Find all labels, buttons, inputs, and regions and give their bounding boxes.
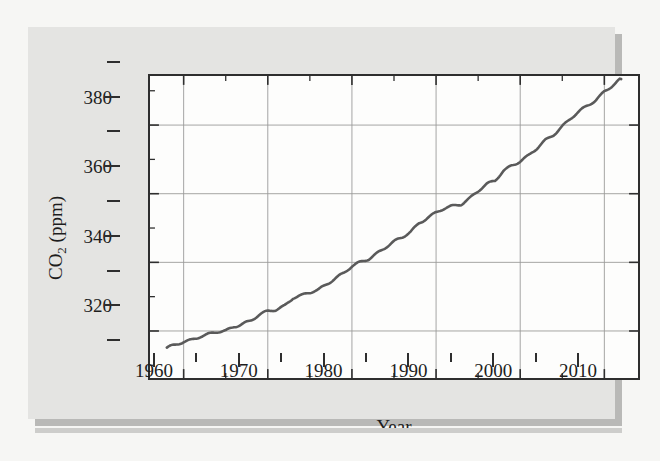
co2-line-chart xyxy=(150,76,638,378)
co2-trend-line xyxy=(167,79,621,348)
x-axis-title: Year xyxy=(148,416,640,438)
x-tick-label: 1960 xyxy=(135,360,173,382)
x-tick-label: 1970 xyxy=(220,360,258,382)
x-tick-label: 1990 xyxy=(389,360,427,382)
x-tick-label: 2000 xyxy=(474,360,512,382)
page-bottom-edge xyxy=(35,428,622,433)
y-tick-label: 340 xyxy=(84,226,113,245)
y-axis-tick-labels: 320340360380 xyxy=(44,0,112,461)
plot-area xyxy=(148,74,640,380)
x-tick-label: 2010 xyxy=(559,360,597,382)
figure-page: CO2 (ppm) Year 320340360380 196019701980… xyxy=(0,0,660,461)
y-tick-label: 320 xyxy=(84,296,113,315)
y-tick-label: 360 xyxy=(84,157,113,176)
y-tick-label: 380 xyxy=(84,87,113,106)
x-tick-label: 1980 xyxy=(305,360,343,382)
x-axis-tick-labels: 196019701980199020002010 xyxy=(0,360,660,390)
